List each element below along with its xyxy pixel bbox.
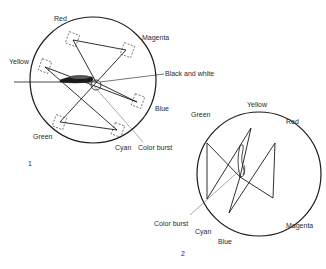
leader-black-white xyxy=(100,74,164,82)
figure-1-vectorscope: Red Magenta Yellow Black and white Blue … xyxy=(9,15,214,167)
label-red-1: Red xyxy=(54,15,67,22)
label-blue-2: Blue xyxy=(218,238,232,245)
label-cyan-2: Cyan xyxy=(195,228,211,236)
label-red-2: Red xyxy=(286,118,299,125)
figure-number-1: 1 xyxy=(28,160,32,167)
label-cyan-1: Cyan xyxy=(115,144,131,152)
figure-number-2: 2 xyxy=(181,250,185,257)
label-black-white: Black and white xyxy=(165,70,214,77)
label-yellow-2: Yellow xyxy=(247,101,268,108)
label-yellow-1: Yellow xyxy=(9,58,30,65)
figure-2-vectorscope: Green Yellow Red Color burst Cyan Magent… xyxy=(154,101,321,257)
label-magenta-2: Magenta xyxy=(286,222,313,230)
label-green-1: Green xyxy=(33,133,53,140)
graticule-circle-2 xyxy=(197,112,321,236)
label-magenta-1: Magenta xyxy=(142,34,169,42)
label-color-burst-2: Color burst xyxy=(154,220,188,227)
label-color-burst-1: Color burst xyxy=(138,144,172,151)
vector-trace-2 xyxy=(207,128,275,213)
vectorscope-diagram: Red Magenta Yellow Black and white Blue … xyxy=(0,0,326,269)
black-white-smear xyxy=(70,75,90,79)
label-green-2: Green xyxy=(191,111,211,118)
label-blue-1: Blue xyxy=(155,105,169,112)
